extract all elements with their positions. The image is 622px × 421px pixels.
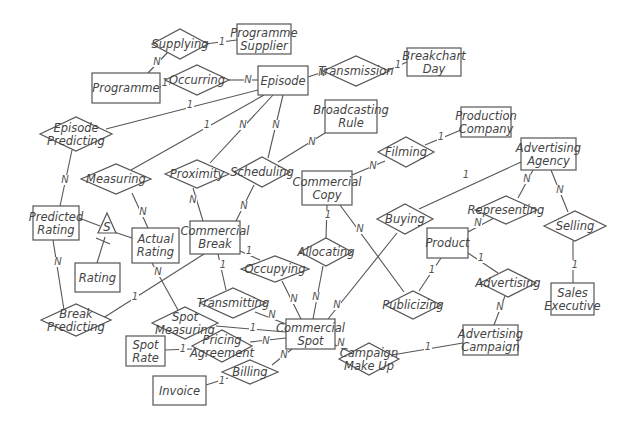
relationship-label: Campaign	[340, 346, 398, 360]
subtype-label: S	[103, 220, 110, 234]
cardinality-label: 1	[395, 59, 401, 70]
entity-label: Predicted	[29, 210, 84, 224]
cardinality-label: N	[369, 160, 377, 171]
relationship-publicizing: Publicizing	[382, 291, 443, 319]
entity-breakchart_day: BreakchartDay	[402, 48, 466, 76]
cardinality-label: N	[240, 200, 248, 211]
relationship-label: Episode	[53, 121, 98, 135]
entity-label: Commercial	[292, 175, 362, 189]
entity-commercial_spot: CommercialSpot	[276, 319, 346, 349]
relationship-label: Break	[59, 307, 94, 321]
entity-actual_rating: ActualRating	[132, 228, 179, 263]
entity-rating: Rating	[75, 263, 120, 292]
cardinality-label: N	[268, 309, 276, 320]
cardinality-label: N	[154, 266, 162, 277]
entity-label: Invoice	[159, 384, 200, 398]
cardinality-label: 1	[220, 259, 226, 270]
relationship-occupying: Occupying	[241, 256, 309, 282]
relationship-filming: Filming	[378, 137, 434, 167]
relationship-occurring: Occurring	[165, 65, 229, 95]
entity-label: Company	[459, 122, 514, 136]
entity-spot_rate: SpotRate	[126, 336, 165, 366]
entity-product: Product	[425, 228, 470, 258]
relationship-label: Advertising	[474, 276, 540, 290]
entity-label: Breakchart	[402, 49, 466, 63]
relationship-break_predicting: BreakPredicting	[41, 304, 111, 336]
cardinality-label: N	[139, 206, 147, 217]
relationship-advertising: Advertising	[474, 269, 540, 297]
relationship-label: Transmitting	[197, 296, 269, 310]
entity-label: Commercial	[180, 224, 250, 238]
entity-label: Advertising	[457, 327, 523, 341]
edge-episode-measuring	[131, 95, 264, 170]
entity-episode: Episode	[258, 66, 308, 95]
relationship-label: Spot	[172, 310, 199, 324]
relationship-campaign_make_up: CampaignMake Up	[339, 343, 399, 375]
entity-label: Spot	[297, 334, 324, 348]
cardinality-label: 1	[187, 99, 193, 110]
cardinality-label: N	[153, 56, 161, 67]
relationship-label: Measuring	[86, 172, 146, 186]
relationship-scheduling: Scheduling	[230, 157, 294, 187]
relationship-supplying: Supplying	[152, 29, 209, 59]
relationship-label: Representing	[468, 203, 545, 217]
entity-label: Rule	[338, 116, 364, 130]
cardinality-label: 1	[463, 169, 469, 180]
entity-commercial_break: CommercialBreak	[180, 221, 250, 254]
entity-label: Advertising	[515, 141, 581, 155]
relationship-label: Scheduling	[230, 165, 294, 179]
cardinality-label: 1	[204, 119, 210, 130]
cardinality-label: 1	[246, 245, 252, 256]
relationship-selling: Selling	[544, 211, 606, 241]
entity-invoice: Invoice	[153, 376, 206, 405]
cardinality-label: N	[496, 301, 504, 312]
relationship-label: Buying	[385, 212, 425, 226]
entity-advertising_campaign: AdvertisingCampaign	[457, 325, 523, 355]
entity-label: Day	[423, 62, 446, 76]
edge-subtype-actual_rating	[114, 232, 132, 238]
relationship-label: Make Up	[344, 359, 394, 373]
relationship-label: Proximity	[170, 167, 225, 181]
entity-label: Spot	[132, 338, 159, 352]
entity-label: Campaign	[461, 340, 519, 354]
cardinality-label: N	[189, 194, 197, 205]
cardinality-label: N	[312, 291, 320, 302]
entity-label: Episode	[260, 74, 305, 88]
cardinality-label: 1	[219, 375, 225, 386]
relationship-label: Transmission	[318, 64, 393, 78]
entity-label: Product	[425, 236, 470, 250]
er-diagram: N11NN111NNNNNNNN1N11N1NN11N1NN1N11NNNN11…	[0, 0, 622, 421]
relationship-billing: Billing	[222, 360, 278, 384]
entity-label: Actual	[136, 232, 174, 246]
cardinality-label: 1	[132, 291, 138, 302]
entity-production_company: ProductionCompany	[455, 107, 517, 137]
subtype-symbol: S	[96, 213, 116, 244]
relationship-label: Allocating	[297, 245, 355, 259]
entity-label: Rating	[79, 271, 116, 285]
cardinality-label: N	[244, 74, 252, 85]
entity-label: Rate	[132, 351, 159, 365]
entity-label: Agency	[526, 154, 570, 168]
cardinality-label: 1	[180, 343, 186, 354]
relationship-label: Predicting	[47, 134, 105, 148]
cardinality-label: 1	[438, 131, 444, 142]
cardinality-label: 1	[478, 252, 484, 263]
entity-label: Programme	[92, 81, 159, 95]
cardinality-label: N	[333, 299, 341, 310]
entity-label: Programme	[230, 26, 297, 40]
relationship-buying: Buying	[377, 204, 433, 234]
relationship-label: Agreement	[189, 346, 255, 360]
entity-broadcasting_rule: BroadcastingRule	[313, 100, 389, 133]
entity-label: Commercial	[276, 321, 346, 335]
entity-commercial_copy: CommercialCopy	[292, 171, 362, 205]
entity-label: Rating	[37, 223, 74, 237]
edge-spot_rate-pricing_agreement	[165, 349, 192, 350]
relationship-label: Predicting	[47, 320, 105, 334]
relationship-label: Publicizing	[382, 298, 443, 312]
relationship-label: Occurring	[169, 73, 225, 87]
relationship-measuring: Measuring	[81, 164, 151, 194]
cardinality-label: N	[280, 349, 288, 360]
cardinality-label: N	[272, 119, 280, 130]
cardinality-label: N	[523, 173, 531, 184]
entity-label: Break	[198, 237, 233, 251]
